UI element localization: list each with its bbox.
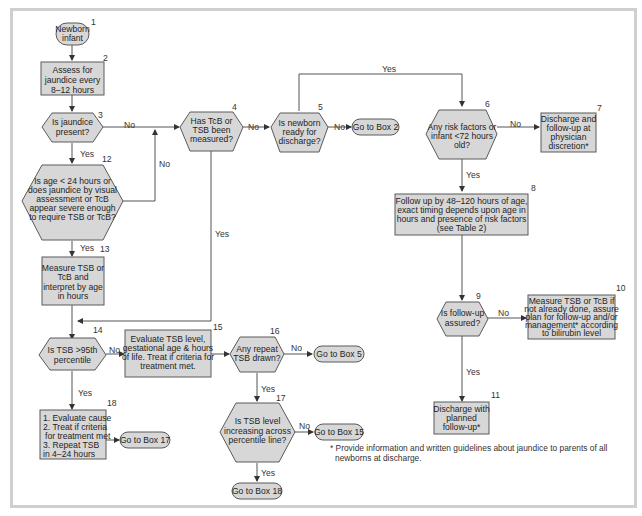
svg-text:Is jaundice: Is jaundice bbox=[52, 117, 93, 127]
svg-text:old?: old? bbox=[454, 140, 470, 150]
edge-label-12-13-yes: Yes bbox=[80, 243, 94, 253]
svg-text:13: 13 bbox=[100, 244, 110, 254]
svg-text:4: 4 bbox=[232, 102, 237, 112]
edge-label-17-no: No bbox=[299, 421, 310, 431]
node-13-measure-tsb: Measure TSB or TcB and interpret by age … bbox=[42, 244, 110, 305]
svg-text:17: 17 bbox=[276, 393, 286, 403]
edge-label-4-yes: Yes bbox=[215, 229, 229, 239]
edge-label-14-15-no: No bbox=[109, 345, 120, 355]
svg-text:9: 9 bbox=[476, 291, 481, 301]
svg-text:14: 14 bbox=[93, 325, 103, 335]
svg-text:Assess for: Assess for bbox=[52, 65, 92, 75]
svg-text:2: 2 bbox=[103, 53, 108, 63]
svg-text:to require TSB or TcB?: to require TSB or TcB? bbox=[29, 212, 116, 222]
goto-box-18: Go to Box 18 bbox=[232, 483, 282, 499]
svg-text:8: 8 bbox=[531, 183, 536, 193]
edge-label-3-12-yes: Yes bbox=[80, 149, 94, 159]
svg-text:percentile: percentile bbox=[54, 355, 91, 365]
edge-label-3-4-no: No bbox=[124, 120, 135, 130]
node-16-repeat-tsb-decision: Any repeat TSB drawn? 16 bbox=[230, 326, 284, 372]
edge-label-5-no: No bbox=[334, 122, 345, 132]
svg-text:Go to Box 5: Go to Box 5 bbox=[316, 349, 362, 359]
goto-box-17: Go to Box 17 bbox=[120, 432, 170, 448]
node-6-risk-factors-decision: Any risk factors or infant <72 hours old… bbox=[426, 99, 497, 159]
svg-text:to bilirubin level: to bilirubin level bbox=[542, 328, 601, 338]
svg-text:Go to Box 15: Go to Box 15 bbox=[314, 427, 364, 437]
svg-text:in 4–24 hours: in 4–24 hours bbox=[43, 449, 95, 459]
svg-text:15: 15 bbox=[213, 322, 223, 332]
svg-text:6: 6 bbox=[485, 99, 490, 109]
svg-text:Go to Box 17: Go to Box 17 bbox=[120, 435, 170, 445]
edge-label-16-17-yes: Yes bbox=[261, 384, 275, 394]
node-4-tcb-measured-decision: Has TcB or TSB been measured? 4 bbox=[180, 102, 243, 151]
node-3-jaundice-present-decision: Is jaundice present? 3 bbox=[42, 110, 103, 142]
node-8-follow-up-timing: Follow up by 48–120 hours of age, exact … bbox=[395, 183, 536, 235]
node-10-measure-assure-plan: Measure TSB or TcB if not already done, … bbox=[524, 283, 626, 339]
svg-text:12: 12 bbox=[102, 154, 112, 164]
node-12-severity-decision: Is age < 24 hours or does jaundice by vi… bbox=[22, 154, 123, 240]
goto-box-2: Go to Box 2 bbox=[352, 119, 399, 135]
edge-label-6-7-no: No bbox=[510, 119, 521, 129]
svg-text:jaundice every: jaundice every bbox=[44, 75, 101, 85]
node-17-tsb-increasing-decision: Is TSB level increasing across percentil… bbox=[220, 393, 295, 462]
svg-text:18: 18 bbox=[107, 398, 117, 408]
edge-label-17-yes: Yes bbox=[261, 468, 275, 478]
svg-text:assured?: assured? bbox=[445, 318, 481, 328]
svg-text:follow-up*: follow-up* bbox=[443, 422, 481, 432]
svg-text:Go to Box 2: Go to Box 2 bbox=[353, 122, 399, 132]
edge-label-12-no: No bbox=[159, 159, 170, 169]
svg-text:10: 10 bbox=[616, 283, 626, 293]
goto-box-15: Go to Box 15 bbox=[314, 424, 364, 440]
svg-text:* Provide information and writ: * Provide information and written guidel… bbox=[330, 443, 608, 453]
edge-label-9-10-no: No bbox=[498, 308, 509, 318]
svg-text:discharge?: discharge? bbox=[278, 136, 320, 146]
edge-label-9-11-yes: Yes bbox=[466, 367, 480, 377]
svg-text:percentile line?: percentile line? bbox=[229, 435, 287, 445]
goto-box-5: Go to Box 5 bbox=[314, 346, 364, 362]
svg-text:11: 11 bbox=[491, 390, 500, 400]
svg-text:(see Table 2): (see Table 2) bbox=[437, 223, 487, 233]
edge-label-6-8-yes: Yes bbox=[466, 170, 480, 180]
svg-text:Is TSB >95th: Is TSB >95th bbox=[48, 345, 98, 355]
svg-text:1: 1 bbox=[91, 17, 96, 27]
node-7-discharge-physician: Discharge and follow-up at physician dis… bbox=[541, 103, 602, 152]
node-11-discharge-planned: Discharge with planned follow-up* 11 bbox=[433, 390, 500, 434]
svg-text:in hours: in hours bbox=[58, 291, 89, 301]
edge-label-5-6-yes: Yes bbox=[382, 64, 396, 74]
svg-text:Is follow-up: Is follow-up bbox=[441, 308, 485, 318]
svg-text:newborns at discharge.: newborns at discharge. bbox=[335, 453, 422, 463]
node-2-assess-jaundice: Assess for jaundice every 8–12 hours 2 bbox=[41, 53, 108, 95]
node-15-evaluate-tsb: Evaluate TSB level, gestational age & ho… bbox=[122, 322, 223, 377]
svg-text:7: 7 bbox=[597, 103, 602, 113]
svg-text:measured?: measured? bbox=[190, 134, 233, 144]
svg-text:present?: present? bbox=[56, 127, 90, 137]
svg-text:8–12 hours: 8–12 hours bbox=[51, 85, 94, 95]
edge-label-16-no: No bbox=[291, 343, 302, 353]
footnote: * Provide information and written guidel… bbox=[330, 443, 608, 463]
svg-text:5: 5 bbox=[318, 102, 323, 112]
svg-text:3: 3 bbox=[98, 110, 103, 120]
svg-text:TSB drawn?: TSB drawn? bbox=[233, 353, 281, 363]
svg-text:discretion*: discretion* bbox=[548, 141, 589, 151]
node-18-evaluate-cause: 1. Evaluate cause 2. Treat if criteria f… bbox=[40, 398, 117, 459]
edge-label-14-18-yes: Yes bbox=[78, 388, 92, 398]
svg-text:infant: infant bbox=[62, 33, 84, 43]
svg-text:Go to Box 18: Go to Box 18 bbox=[232, 486, 282, 496]
flowchart: No Yes No Yes Yes No No Yes No Yes No Ye… bbox=[0, 0, 642, 516]
node-1-newborn-infant: Newborn infant 1 bbox=[55, 17, 96, 45]
svg-text:treatment met.: treatment met. bbox=[140, 361, 195, 371]
edge-label-4-5-no: No bbox=[248, 122, 259, 132]
svg-text:TcB and: TcB and bbox=[57, 272, 88, 282]
svg-text:Is TSB level: Is TSB level bbox=[235, 416, 281, 426]
svg-text:16: 16 bbox=[270, 326, 280, 336]
